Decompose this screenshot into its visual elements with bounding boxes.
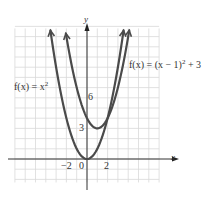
equation-tail: + 3 [185,59,201,70]
tick-label-3: 3 [79,122,84,133]
tick-label-6: 6 [88,91,93,102]
axes [8,23,179,190]
tick-label-0: 0 [79,160,84,171]
equation-label-shifted: f(x) = (x − 1)2 + 3 [129,58,201,70]
equation-text: f(x) = (x − 1) [129,59,182,70]
y-axis-label: y [84,14,88,24]
equation-exponent: 2 [45,80,49,88]
tick-label-2: 2 [104,160,109,171]
equation-label-x-squared: f(x) = x2 [14,80,48,92]
tick-label-neg2: −2 [61,160,72,171]
equation-text: f(x) = x [14,81,45,92]
x-axis-label: x [171,152,175,162]
